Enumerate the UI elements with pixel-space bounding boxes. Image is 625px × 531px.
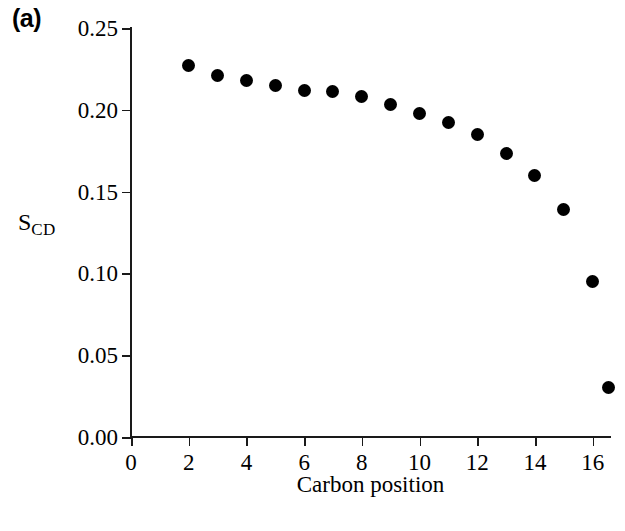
x-tick	[535, 437, 537, 446]
x-tick-label: 12	[466, 451, 489, 474]
x-tick-label: 6	[298, 451, 310, 474]
data-point	[326, 85, 339, 98]
data-point	[384, 98, 397, 111]
y-tick	[122, 110, 131, 112]
y-tick	[122, 437, 131, 439]
x-tick-label: 14	[523, 451, 546, 474]
y-tick-label: 0.05	[78, 344, 118, 367]
data-point	[182, 59, 195, 72]
x-tick	[420, 437, 422, 446]
data-point	[471, 128, 484, 141]
panel-label: (a)	[12, 6, 41, 31]
figure-panel-a: (a) 0.000.050.100.150.200.25 02468101214…	[0, 0, 625, 531]
x-tick-label: 4	[241, 451, 253, 474]
y-tick	[122, 28, 131, 30]
y-tick-label: 0.20	[78, 98, 118, 121]
y-tick-label: 0.10	[78, 262, 118, 285]
y-tick	[122, 273, 131, 275]
x-tick-label: 16	[581, 451, 604, 474]
data-point	[355, 90, 368, 103]
data-point	[269, 79, 282, 92]
data-point	[211, 69, 224, 82]
x-axis-label: Carbon position	[131, 473, 610, 496]
data-point	[602, 381, 615, 394]
data-point	[240, 74, 253, 87]
y-tick-label: 0.00	[78, 426, 118, 449]
y-axis-label-subscript: CD	[31, 220, 55, 239]
plot-area: 0.000.050.100.150.200.25 0246810121416	[131, 28, 610, 437]
data-point	[528, 169, 541, 182]
y-tick-label: 0.15	[78, 180, 118, 203]
x-tick-label: 8	[356, 451, 368, 474]
y-axis-label: SCD	[18, 210, 56, 238]
x-tick	[593, 437, 595, 446]
data-point	[413, 107, 426, 120]
x-tick-label: 2	[183, 451, 195, 474]
x-tick	[131, 437, 133, 446]
data-point	[500, 147, 513, 160]
y-tick	[122, 355, 131, 357]
y-tick	[122, 192, 131, 194]
x-tick	[477, 437, 479, 446]
y-tick-label: 0.25	[78, 17, 118, 40]
data-point	[586, 275, 599, 288]
data-point	[557, 203, 570, 216]
x-tick-label: 0	[125, 451, 137, 474]
data-point	[442, 116, 455, 129]
y-axis-label-base: S	[18, 209, 31, 235]
x-tick	[189, 437, 191, 446]
data-point	[298, 84, 311, 97]
x-tick	[304, 437, 306, 446]
x-tick	[362, 437, 364, 446]
x-tick-label: 10	[408, 451, 431, 474]
x-tick	[246, 437, 248, 446]
